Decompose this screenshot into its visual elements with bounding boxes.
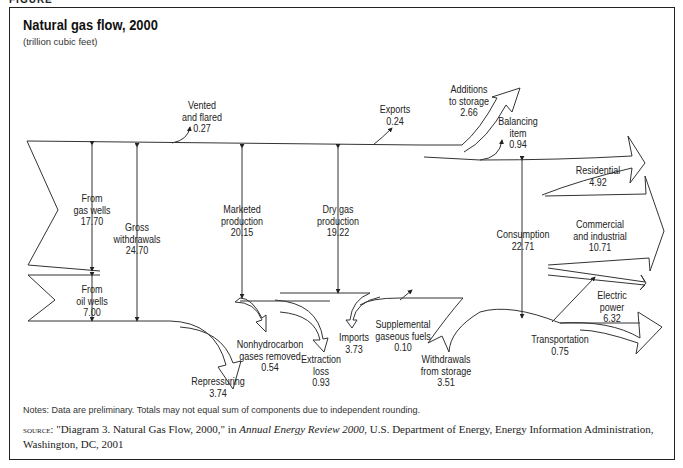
label-supplemental-fuels: Supplementalgaseous fuels0.10: [375, 319, 431, 354]
transportation-pointer: [552, 277, 595, 322]
label-imports: Imports3.73: [339, 332, 369, 355]
main-flow-top-edge: [27, 141, 420, 145]
label-marketed-production: Marketedproduction20.15: [221, 204, 263, 239]
label-withdrawals-storage: Withdrawalsfrom storage3.51: [421, 354, 472, 389]
label-commercial-industrial: Commercialand industrial10.71: [573, 219, 627, 254]
label-residential: Residential4.92: [576, 165, 621, 188]
source-label: source:: [23, 424, 53, 435]
label-exports: Exports0.24: [380, 104, 411, 127]
label-vented-flared: Ventedand flared0.27: [182, 100, 222, 135]
label-extraction-loss: Extractionloss0.93: [301, 354, 341, 389]
label-repressuring: Repressuring3.74: [191, 376, 245, 399]
label-transportation: Transportation0.75: [531, 334, 589, 357]
nonhydro-arrow: [235, 298, 266, 332]
source-citation: source: "Diagram 3. Natural Gas Flow, 20…: [23, 422, 663, 451]
label-additions-storage: Additionsto storage2.66: [449, 84, 489, 119]
exports-pointer: [373, 128, 392, 145]
label-electric-power: Electricpower6.32: [597, 290, 627, 325]
label-dry-gas-production: Dry gasproduction19.22: [317, 204, 359, 239]
transportation-arrow: [548, 268, 646, 290]
notes-text: Notes: Data are preliminary. Totals may …: [23, 405, 420, 415]
label-balancing-item: Balancingitem0.94: [498, 116, 538, 151]
label-oil-wells: Fromoil wells7.00: [76, 284, 108, 319]
source-publication: Annual Energy Review 2000: [239, 423, 364, 435]
label-consumption: Consumption22.71: [496, 229, 549, 252]
source-text: "Diagram 3. Natural Gas Flow, 2000," in: [53, 423, 239, 435]
label-nonhydrocarbon: Nonhydrocarbongases removed0.54: [237, 339, 304, 374]
label-gas-wells: Fromgas wells17.70: [73, 193, 110, 228]
label-gross-withdrawals: Grosswithdrawals24.70: [113, 222, 160, 257]
